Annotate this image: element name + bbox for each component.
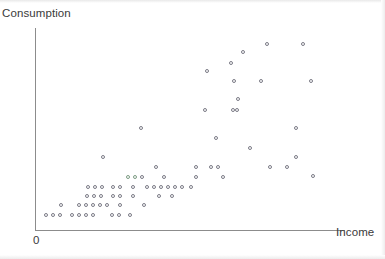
data-point — [142, 203, 146, 207]
data-point — [309, 79, 313, 83]
data-point — [111, 194, 115, 198]
data-point — [294, 126, 298, 130]
data-point — [131, 185, 135, 189]
data-point — [231, 108, 235, 112]
data-point — [93, 185, 97, 189]
data-point — [118, 203, 122, 207]
data-point — [91, 203, 95, 207]
data-point — [248, 146, 252, 150]
data-point — [235, 108, 239, 112]
data-point — [205, 69, 209, 73]
data-point — [85, 194, 89, 198]
data-point — [118, 194, 122, 198]
data-points-layer — [0, 0, 385, 259]
data-point — [110, 213, 114, 217]
data-point — [133, 175, 137, 179]
data-point — [58, 213, 62, 217]
data-point — [232, 79, 236, 83]
data-point — [59, 203, 63, 207]
data-point — [311, 174, 315, 178]
data-point — [77, 203, 81, 207]
data-point — [209, 165, 213, 169]
data-point — [101, 155, 105, 159]
data-point — [145, 185, 149, 189]
scatter-plot-figure: Consumption Income 0 — [0, 0, 385, 259]
data-point — [84, 203, 88, 207]
data-point — [131, 194, 135, 198]
data-point — [154, 165, 158, 169]
data-point — [259, 79, 263, 83]
data-point — [194, 165, 198, 169]
data-point — [99, 194, 103, 198]
data-point — [229, 61, 233, 65]
data-point — [84, 213, 88, 217]
data-point — [170, 194, 174, 198]
data-point — [118, 185, 122, 189]
data-point — [236, 97, 240, 101]
data-point — [44, 213, 48, 217]
data-point — [294, 155, 298, 159]
data-point — [241, 50, 245, 54]
data-point — [128, 213, 132, 217]
data-point — [301, 42, 305, 46]
data-point — [100, 185, 104, 189]
data-point — [105, 203, 109, 207]
data-point — [189, 185, 193, 189]
data-point — [140, 175, 144, 179]
data-point — [92, 194, 96, 198]
data-point — [86, 185, 90, 189]
data-point — [77, 213, 81, 217]
data-point — [203, 108, 207, 112]
data-point — [91, 213, 95, 217]
data-point — [265, 42, 269, 46]
data-point — [173, 185, 177, 189]
data-point — [157, 194, 161, 198]
data-point — [214, 136, 218, 140]
data-point — [70, 213, 74, 217]
data-point — [117, 213, 121, 217]
data-point — [285, 165, 289, 169]
data-point — [194, 175, 198, 179]
data-point — [152, 185, 156, 189]
data-point — [51, 213, 55, 217]
data-point — [268, 165, 272, 169]
data-point — [221, 175, 225, 179]
data-point — [111, 185, 115, 189]
data-point — [180, 185, 184, 189]
data-point — [162, 175, 166, 179]
data-point — [216, 165, 220, 169]
data-point — [159, 185, 163, 189]
data-point — [126, 175, 130, 179]
data-point — [166, 185, 170, 189]
data-point — [98, 203, 102, 207]
data-point — [139, 126, 143, 130]
